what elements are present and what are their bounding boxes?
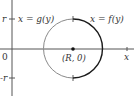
y-tick-bottom-label: -r (0, 73, 8, 83)
origin-label: 0 (2, 52, 8, 62)
center-point (71, 47, 75, 51)
y-tick-top-label: r (2, 14, 7, 24)
diagram-canvas: r -r 0 x x = g(y) x = f(y) (R, 0) (0, 0, 134, 96)
x-axis-label: x (124, 52, 129, 62)
left-curve-label: x = g(y) (18, 14, 55, 24)
center-label: (R, 0) (62, 53, 86, 63)
right-curve-label: x = f(y) (90, 14, 124, 24)
